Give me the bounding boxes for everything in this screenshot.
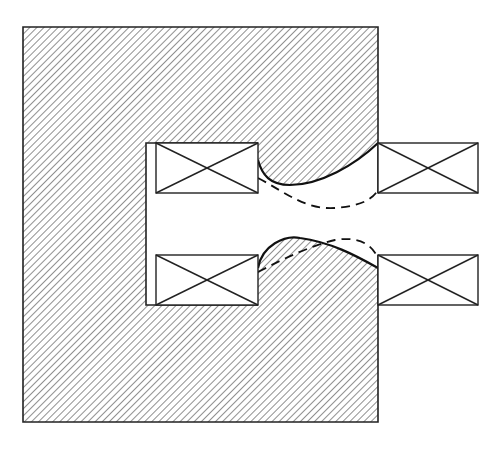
- coil-lower-left: [156, 255, 258, 305]
- coil-lower-right: [378, 255, 478, 305]
- yoke-coil-diagram: [0, 0, 500, 451]
- yoke-body: [23, 27, 378, 422]
- coil-upper-right: [378, 143, 478, 193]
- coil-upper-left: [156, 143, 258, 193]
